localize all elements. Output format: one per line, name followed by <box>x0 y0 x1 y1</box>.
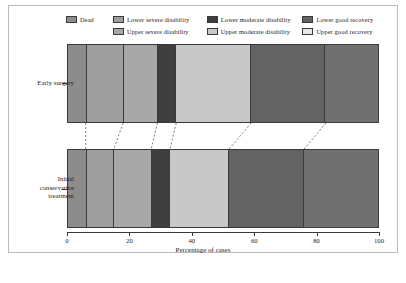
bar-segment-upper-severe-disability <box>124 45 158 122</box>
legend-item-label: Lower good recovery <box>316 16 373 23</box>
legend-item-spacer <box>66 26 106 37</box>
legend-row: Upper severe disabilityUpper moderate di… <box>66 26 386 37</box>
bar-segment-lower-severe-disability <box>87 45 124 122</box>
stacked-bar-initial-conservative-treatment <box>67 149 379 228</box>
legend-item-label: Upper severe disability <box>127 28 189 35</box>
legend-item-label: Lower severe disability <box>127 16 189 23</box>
legend-swatch-icon <box>113 16 124 23</box>
legend-item-label: Upper moderate disability <box>221 28 290 35</box>
bar-segment-lower-moderate-disability <box>158 45 177 122</box>
connector-line <box>229 123 251 149</box>
bar-segment-lower-good-recovery <box>229 150 303 227</box>
x-axis-tick-label-80: 80 <box>313 237 320 245</box>
legend-item-label: Dead <box>80 16 94 23</box>
legend-item-lower-moderate-disability: Lower moderate disability <box>207 14 296 25</box>
legend-item-upper-severe-disability: Upper severe disability <box>113 26 200 37</box>
x-axis-tick-0 <box>67 232 68 236</box>
connector-line <box>304 123 326 149</box>
legend-swatch-icon <box>207 28 218 35</box>
connector-line <box>114 123 123 149</box>
bar-segment-upper-good-recovery <box>304 150 378 227</box>
x-axis-title: Percentage of cases <box>0 246 406 255</box>
x-axis-tick-label-20: 20 <box>126 237 133 245</box>
legend-swatch-icon <box>113 28 124 35</box>
x-axis-tick-60 <box>254 232 255 236</box>
legend-item-upper-good-recovery: Upper good recovery <box>302 26 379 37</box>
bar-segment-upper-moderate-disability <box>176 45 250 122</box>
y-axis-label-line: Initial <box>12 175 74 184</box>
x-axis-tick-label-100: 100 <box>374 237 384 245</box>
plot-area <box>67 44 379 229</box>
legend-item-lower-severe-disability: Lower severe disability <box>113 14 200 25</box>
chart-legend: DeadLower severe disabilityLower moderat… <box>66 14 386 38</box>
bar-segment-lower-good-recovery <box>251 45 325 122</box>
legend-swatch-icon <box>302 28 313 35</box>
x-axis-tick-label-0: 0 <box>65 237 68 245</box>
legend-swatch-icon <box>66 16 77 23</box>
bar-segment-upper-good-recovery <box>325 45 378 122</box>
x-axis-tick-100 <box>379 232 380 236</box>
legend-row: DeadLower severe disabilityLower moderat… <box>66 14 386 25</box>
bar-segment-lower-severe-disability <box>87 150 115 227</box>
figure-container: DeadLower severe disabilityLower moderat… <box>0 0 406 283</box>
y-axis-label-initial-conservative-treatment: Initialconservativetreatment <box>12 175 74 201</box>
y-axis-tick-1 <box>62 189 67 190</box>
legend-item-label: Upper good recovery <box>316 28 372 35</box>
x-axis-tick-80 <box>317 232 318 236</box>
legend-item-dead: Dead <box>66 14 106 25</box>
x-axis-tick-20 <box>129 232 130 236</box>
legend-item-label: Lower moderate disability <box>221 16 291 23</box>
y-axis-label-line: conservative <box>12 184 74 193</box>
x-axis-tick-label-60: 60 <box>251 237 258 245</box>
x-axis-line <box>67 232 379 233</box>
connector-line <box>151 123 157 149</box>
connector-line <box>170 123 176 149</box>
y-axis-label-line: treatment <box>12 192 74 201</box>
boundary-connector-lines <box>67 123 379 149</box>
bar-segment-lower-moderate-disability <box>152 150 171 227</box>
x-axis-tick-40 <box>192 232 193 236</box>
legend-swatch-icon <box>207 16 218 23</box>
x-axis-tick-label-40: 40 <box>189 237 196 245</box>
bar-segment-upper-moderate-disability <box>170 150 229 227</box>
bar-segment-upper-severe-disability <box>114 150 151 227</box>
legend-item-lower-good-recovery: Lower good recovery <box>302 14 379 25</box>
legend-item-upper-moderate-disability: Upper moderate disability <box>207 26 296 37</box>
legend-swatch-icon <box>302 16 313 23</box>
stacked-bar-early-surgery <box>67 44 379 123</box>
y-axis-tick-0 <box>62 83 67 84</box>
